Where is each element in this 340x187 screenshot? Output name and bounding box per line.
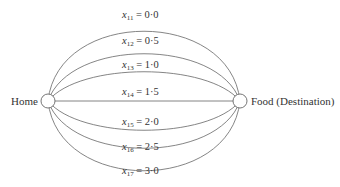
edge-label-x15: x15 = 2·0 bbox=[121, 116, 159, 129]
network-diagram: Home Food (Destination) x11 = 0·0 x12 = … bbox=[0, 0, 340, 187]
edge-label-x13: x13 = 1·0 bbox=[121, 59, 159, 72]
edge-x17 bbox=[48, 101, 240, 171]
edge-label-x12: x12 = 0·5 bbox=[121, 35, 159, 48]
edge-label-x14: x14 = 1·5 bbox=[121, 86, 159, 99]
food-label: Food (Destination) bbox=[251, 95, 335, 108]
home-label: Home bbox=[11, 95, 38, 107]
home-node bbox=[41, 94, 55, 108]
edge-label-x17: x17 = 3·0 bbox=[121, 165, 159, 178]
edge-label-x11: x11 = 0·0 bbox=[121, 9, 159, 22]
edge-label-x16: x16 = 2·5 bbox=[121, 141, 159, 154]
food-node bbox=[233, 94, 247, 108]
